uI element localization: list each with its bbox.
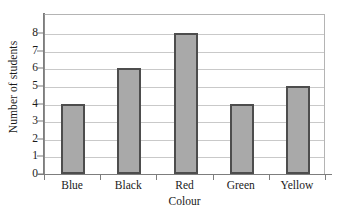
y-axis-tick-label: 0: [0, 168, 38, 180]
y-axis-tick-mark: [37, 156, 44, 157]
y-axis-tick-label: 4: [0, 98, 38, 110]
x-axis-tick-label: Red: [156, 178, 212, 192]
bar: [230, 104, 254, 175]
y-axis-tick-label-group: 012345678: [0, 0, 38, 217]
y-axis-tick-label: 5: [0, 80, 38, 92]
y-axis-tick-mark: [37, 50, 44, 51]
x-axis-tick-label: Green: [213, 178, 269, 192]
y-axis-tick-mark: [37, 103, 44, 104]
x-axis-tick-mark: [269, 174, 270, 180]
x-axis-tick-mark: [325, 174, 326, 180]
x-axis-tick-mark: [44, 174, 45, 180]
x-axis-tick-label: Black: [100, 178, 156, 192]
y-axis-tick-mark: [37, 85, 44, 86]
y-axis-tick-mark: [37, 174, 44, 175]
plot-inner: [45, 15, 324, 174]
bar: [174, 33, 198, 174]
bar-chart-figure: Number of students 012345678 Colour Blue…: [0, 0, 343, 217]
x-axis-title: Colour: [44, 194, 325, 208]
y-axis-tick-mark: [37, 138, 44, 139]
y-axis-tick-label: 1: [0, 151, 38, 163]
x-axis-tick-label: Blue: [44, 178, 100, 192]
y-axis-tick-label: 6: [0, 63, 38, 75]
bar: [286, 86, 310, 174]
y-axis-tick-label: 3: [0, 115, 38, 127]
x-axis-tick-mark: [213, 174, 214, 180]
plot-area: [44, 14, 325, 174]
y-axis-tick-label: 8: [0, 27, 38, 39]
x-axis-tick-label: Yellow: [269, 178, 325, 192]
y-axis-tick-mark: [37, 68, 44, 69]
x-axis-tick-mark: [156, 174, 157, 180]
y-axis-tick-label: 7: [0, 45, 38, 57]
y-axis-tick-mark: [37, 121, 44, 122]
bar: [61, 104, 85, 175]
bar: [117, 68, 141, 174]
x-axis-tick-mark: [100, 174, 101, 180]
y-axis-tick-mark: [37, 33, 44, 34]
y-axis-tick-label: 2: [0, 133, 38, 145]
